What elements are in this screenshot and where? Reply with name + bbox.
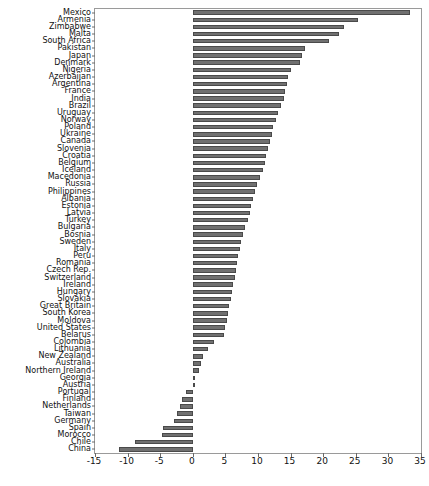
y-axis-tick [92,449,95,450]
y-axis-tick [92,69,95,70]
bar-row: Albania [95,195,421,202]
y-axis-tick [92,198,95,199]
y-axis-tick [92,370,95,371]
bar-row: Zimbabwe [95,23,421,30]
bar-row: Slovenia [95,145,421,152]
bar [193,146,268,150]
x-axis-tick-label: 35 [414,456,425,466]
bar [193,290,232,294]
bar-row: Moldova [95,317,421,324]
bar-row: Ireland [95,281,421,288]
bar-row: Spain [95,424,421,431]
y-axis-tick-label: China [68,445,91,453]
x-axis-tick-label: 5 [222,456,228,466]
y-axis-tick [92,234,95,235]
y-axis-tick [92,241,95,242]
bar [193,218,248,222]
bar-row: Bulgaria [95,224,421,231]
y-axis-tick [92,313,95,314]
bar-row: Romania [95,260,421,267]
bar [193,347,209,351]
bar-row: Japan [95,52,421,59]
bar-row: Estonia [95,202,421,209]
bar [193,46,305,50]
y-axis-tick [92,349,95,350]
bar [193,197,253,201]
bar [193,175,260,179]
y-axis-tick [92,420,95,421]
x-axis-tick-label: 30 [382,456,393,466]
x-axis-tick-label: -10 [119,456,134,466]
y-axis-tick [92,263,95,264]
bar-row: Lithuania [95,346,421,353]
y-axis-tick [92,306,95,307]
bar [180,404,193,408]
y-axis-tick [92,155,95,156]
bar [193,25,344,29]
bar-row: Georgia [95,374,421,381]
bar [193,354,203,358]
bar [193,368,200,372]
bar-row: South Korea [95,310,421,317]
bar-row: Malta [95,30,421,37]
y-axis-tick [92,406,95,407]
bar [119,447,193,451]
y-axis-tick [92,84,95,85]
y-axis-tick [92,213,95,214]
bar-row: Switzerland [95,274,421,281]
bar [193,139,270,143]
bar [193,118,276,122]
bar-row: Chile [95,439,421,446]
y-axis-tick [92,127,95,128]
bar [193,240,241,244]
bar-row: Morocco [95,432,421,439]
bar [193,161,265,165]
bar [193,89,286,93]
y-axis-tick [92,41,95,42]
bar [193,125,273,129]
y-axis-tick [92,320,95,321]
bar [193,282,233,286]
y-axis-tick [92,277,95,278]
bar [193,39,329,43]
bar-row: Great Britain [95,303,421,310]
bar [193,53,303,57]
y-axis-tick [92,98,95,99]
bar-row: Belarus [95,331,421,338]
y-axis-tick [92,62,95,63]
bar-row: Norway [95,116,421,123]
y-axis-tick [92,19,95,20]
bar [193,68,291,72]
y-axis-tick [92,12,95,13]
bar [193,340,214,344]
bar [193,75,288,79]
y-axis-tick [92,334,95,335]
bar [193,247,240,251]
bar [193,304,230,308]
y-axis-tick [92,384,95,385]
bar-row: Brazil [95,102,421,109]
bar-row: Pakistan [95,45,421,52]
bar [193,297,231,301]
bar [193,361,201,365]
bar [193,225,245,229]
y-axis-tick [92,26,95,27]
bar-row: Croatia [95,152,421,159]
y-axis-tick [92,34,95,35]
y-axis-tick [92,220,95,221]
bar-row: France [95,88,421,95]
bar-row: Netherlands [95,403,421,410]
y-axis-tick [92,55,95,56]
bar-row: Italy [95,245,421,252]
y-axis-tick [92,141,95,142]
bar [135,440,192,444]
y-axis-tick [92,256,95,257]
bar-row: Northern Ireland [95,367,421,374]
bar [193,10,410,14]
bar [193,82,287,86]
y-axis-tick [92,105,95,106]
bar-row: Latvia [95,210,421,217]
y-axis-tick [92,112,95,113]
x-axis-tick-label: -15 [87,456,102,466]
x-axis-tick-label: -5 [155,456,164,466]
